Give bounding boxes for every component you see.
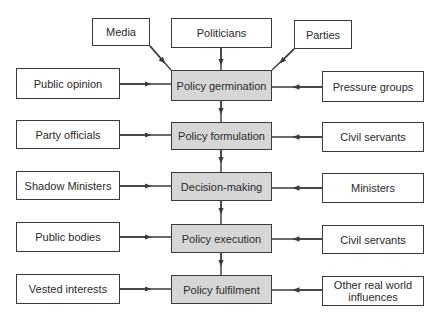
input-civil-servants-formulation: Civil servants <box>322 122 424 152</box>
stage-decision-making: Decision-making <box>171 172 272 201</box>
input-public-bodies: Public bodies <box>16 222 120 252</box>
input-shadow-ministers: Shadow Ministers <box>16 171 120 200</box>
stage-label: Policy formulation <box>178 130 265 142</box>
connector-arrows <box>0 0 439 320</box>
input-label: Shadow Ministers <box>25 180 112 192</box>
input-label: Parties <box>306 29 340 41</box>
input-party-officials: Party officials <box>16 120 120 149</box>
input-media: Media <box>92 18 150 46</box>
stage-label: Policy execution <box>182 233 262 245</box>
input-public-opinion: Public opinion <box>16 68 120 99</box>
input-label: Media <box>106 26 136 38</box>
stage-policy-formulation: Policy formulation <box>171 122 272 150</box>
input-label: Party officials <box>35 129 100 141</box>
input-label: Civil servants <box>340 131 405 143</box>
input-vested-interests: Vested interests <box>16 274 120 304</box>
input-label: Public opinion <box>34 78 103 90</box>
input-other-real-world-influences: Other real world influences <box>322 276 424 306</box>
input-politicians: Politicians <box>171 18 272 48</box>
input-label: Ministers <box>351 182 395 194</box>
stage-policy-germination: Policy germination <box>171 70 272 101</box>
stage-label: Decision-making <box>181 181 262 193</box>
input-label: Civil servants <box>340 234 405 246</box>
input-label: Vested interests <box>29 283 107 295</box>
stage-label: Policy germination <box>177 80 267 92</box>
stage-policy-fulfilment: Policy fulfilment <box>171 275 272 304</box>
stage-policy-execution: Policy execution <box>171 224 272 253</box>
stage-label: Policy fulfilment <box>183 284 259 296</box>
input-label: Pressure groups <box>333 81 414 93</box>
input-parties: Parties <box>294 20 352 49</box>
input-label: Politicians <box>197 27 247 39</box>
input-label: Public bodies <box>35 231 100 243</box>
input-label: Other real world influences <box>329 279 417 303</box>
input-civil-servants-execution: Civil servants <box>322 225 424 254</box>
input-pressure-groups: Pressure groups <box>322 71 424 102</box>
input-ministers: Ministers <box>322 173 424 203</box>
